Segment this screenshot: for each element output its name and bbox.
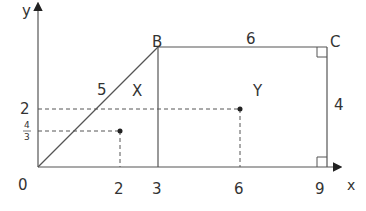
y-tick-4-3-numerator: 4 — [24, 120, 30, 130]
y-tick-2: 2 — [20, 100, 30, 118]
right-angle-marker-C — [317, 47, 327, 57]
vertex-label-B: B — [152, 33, 162, 51]
x-tick-6: 6 — [234, 180, 244, 198]
x-tick-3: 3 — [152, 180, 162, 198]
y-tick-4-3-denominator: 3 — [24, 132, 30, 142]
region-label-Y: Y — [252, 82, 263, 100]
x-tick-2: 2 — [114, 180, 124, 198]
vertex-label-C: C — [330, 33, 340, 51]
diagram-svg: y x 0 2 3 6 9 2 4 3 B C 5 6 4 X Y — [0, 0, 366, 211]
x-tick-9: 9 — [315, 180, 325, 198]
region-label-X: X — [132, 82, 142, 100]
side-label-5: 5 — [97, 81, 107, 99]
x-axis-label: x — [347, 177, 355, 193]
composite-shape-diagram: y x 0 2 3 6 9 2 4 3 B C 5 6 4 X Y — [0, 0, 366, 211]
side-OB — [38, 47, 158, 167]
y-axis-label: y — [22, 2, 31, 20]
centroid-point-X — [118, 129, 123, 134]
centroid-point-Y — [238, 107, 243, 112]
origin-label: 0 — [18, 176, 28, 194]
side-label-6: 6 — [246, 30, 256, 48]
side-label-4: 4 — [334, 96, 344, 114]
right-angle-marker-9 — [317, 157, 327, 167]
